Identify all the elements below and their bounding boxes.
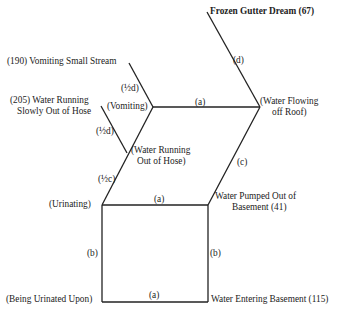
node-water-flowing-line1: (Water Flowing bbox=[260, 96, 318, 107]
node-water-running-slowly-line2: Slowly Out of Hose bbox=[17, 106, 91, 117]
edge-label-half-c: (½c) bbox=[98, 174, 115, 185]
node-water-flowing-line2: off Roof) bbox=[272, 107, 307, 118]
node-water-pumped-line1: Water Pumped Out of bbox=[215, 191, 296, 202]
node-being-urinated-upon: (Being Urinated Upon) bbox=[6, 294, 92, 305]
node-urinating: (Urinating) bbox=[49, 199, 91, 210]
edge-label-b-right: (b) bbox=[210, 248, 221, 259]
node-frozen-gutter-dream: Frozen Gutter Dream (67) bbox=[210, 6, 314, 17]
node-water-pumped-line2: Basement (41) bbox=[232, 202, 286, 213]
node-water-running-slowly-line1: (205) Water Running bbox=[10, 95, 89, 106]
edge-label-half-d-lower: (½d) bbox=[96, 126, 114, 137]
node-water-running-hose-line1: (Water Running bbox=[131, 145, 190, 156]
edge-label-b-left: (b) bbox=[87, 248, 98, 259]
node-vomiting-small-stream: (190) Vomiting Small Stream bbox=[7, 56, 116, 67]
edge-label-d: (d) bbox=[233, 55, 244, 66]
node-water-entering-basement: Water Entering Basement (115) bbox=[211, 294, 328, 305]
node-water-running-hose-line2: Out of Hose) bbox=[137, 156, 186, 167]
edge-label-a-top: (a) bbox=[195, 97, 205, 108]
edge-label-c: (c) bbox=[237, 157, 247, 168]
edge-label-half-d-upper: (½d) bbox=[121, 83, 139, 94]
edge-label-a-bottom: (a) bbox=[149, 290, 159, 301]
edge-label-a-middle: (a) bbox=[154, 194, 164, 205]
node-vomiting: (Vomiting) bbox=[107, 101, 148, 112]
